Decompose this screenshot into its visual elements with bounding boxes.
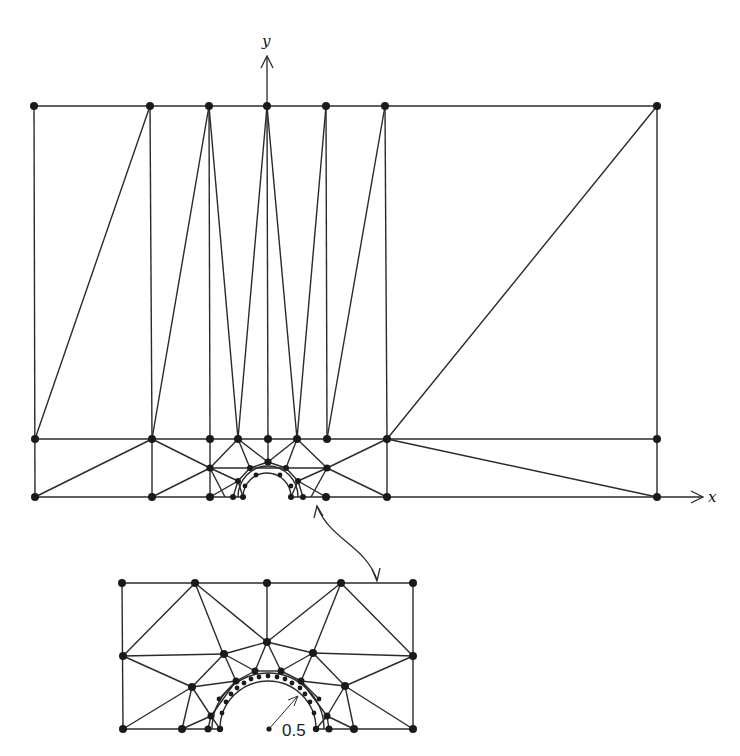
radius-label: 0.5 <box>282 721 306 740</box>
zoom-connector <box>314 506 380 581</box>
connector-curve <box>317 506 377 580</box>
caption-cropped <box>0 748 740 756</box>
hole-boundary <box>243 473 291 497</box>
mesh-diagram: y x <box>0 0 740 756</box>
main-mesh: y x <box>30 32 717 506</box>
x-axis-label: x <box>708 488 717 506</box>
main-edges <box>34 106 657 497</box>
hole-center-point <box>266 726 271 731</box>
inset-mesh: 0.5 <box>118 579 417 740</box>
x-axis: x <box>657 488 717 506</box>
y-axis: y <box>261 32 273 106</box>
inset-edges <box>122 583 413 729</box>
y-axis-label: y <box>261 32 271 50</box>
main-nodes <box>30 102 661 501</box>
